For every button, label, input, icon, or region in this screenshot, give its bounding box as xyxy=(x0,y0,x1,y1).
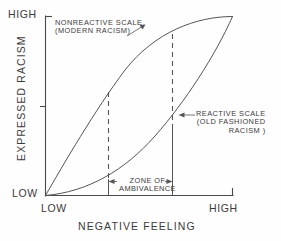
series-label-nonreactive-line2: (MODERN RACISM) xyxy=(55,27,142,35)
curve-reactive-scale xyxy=(46,17,233,196)
leader-reactive-arrow-icon xyxy=(179,113,185,118)
series-label-reactive-line3: RACISM ) xyxy=(196,127,266,135)
y-axis-title: EXPRESSED RACISM xyxy=(16,51,28,161)
annotation-zone-line2: AMBIVALENCE xyxy=(119,185,176,193)
series-label-reactive: REACTIVE SCALE (OLD FASHIONED RACISM ) xyxy=(196,110,266,135)
zone-arrow-left-icon xyxy=(109,179,115,184)
annotation-zone-of-ambivalence: ZONE OF AMBIVALENCE xyxy=(119,177,176,193)
curve-nonreactive-scale xyxy=(46,17,233,196)
x-axis-title: NEGATIVE FEELING xyxy=(78,221,196,233)
figure-container: HIGH LOW LOW HIGH NEGATIVE FEELING EXPRE… xyxy=(0,0,281,241)
x-axis-label-low: LOW xyxy=(41,203,67,215)
series-label-nonreactive: NONREACTIVE SCALE (MODERN RACISM) xyxy=(55,19,142,36)
y-axis-label-high: HIGH xyxy=(8,9,37,21)
x-axis-label-high: HIGH xyxy=(209,203,238,215)
y-axis-label-low: LOW xyxy=(12,188,38,200)
